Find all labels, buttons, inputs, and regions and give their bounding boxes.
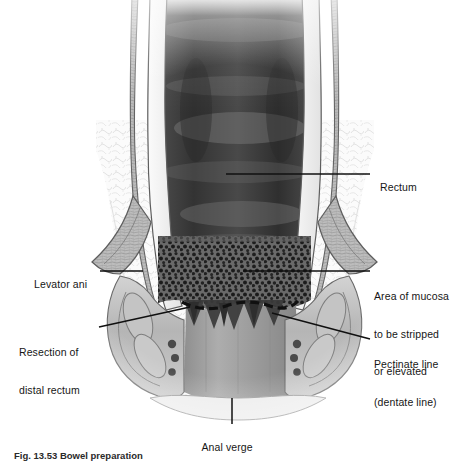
vessel-left-1	[168, 340, 176, 348]
vessel-left-2	[171, 354, 179, 362]
label-rectum: Rectum	[374, 168, 417, 193]
label-levator-ani-text: Levator ani	[34, 278, 87, 290]
anal-verge	[150, 395, 326, 420]
anal-canal	[184, 302, 298, 404]
vessel-right-3	[293, 368, 301, 376]
label-resection-line1: Resection of	[19, 346, 80, 359]
figure-caption: Fig. 13.53 Bowel preparation	[14, 450, 314, 461]
label-resection-line2: distal rectum	[19, 384, 80, 397]
vessel-right-2	[290, 354, 298, 362]
label-levator-ani: Levator ani	[28, 265, 87, 290]
vessel-right-1	[293, 340, 301, 348]
label-area-of-mucosa-line1: Area of mucosa	[374, 290, 449, 303]
label-pectinate-line2: (dentate line)	[374, 396, 438, 409]
label-pectinate-line: Pectinate line (dentate line)	[374, 333, 438, 421]
label-rectum-text: Rectum	[380, 181, 417, 193]
label-resection-distal-rectum: Resection of distal rectum	[19, 321, 80, 409]
vessel-left-3	[168, 368, 176, 376]
label-pectinate-line1: Pectinate line	[374, 358, 438, 371]
